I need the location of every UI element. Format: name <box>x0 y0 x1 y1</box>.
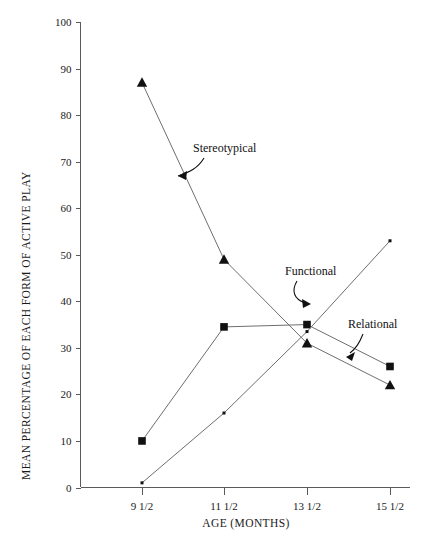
annotation-arrow-relational <box>350 334 363 353</box>
data-point-stereotypical-3 <box>385 380 395 389</box>
y-tick-labels: 0102030405060708090100 <box>55 16 72 494</box>
data-point-relational-3 <box>389 239 392 242</box>
y-tick-label-30: 30 <box>61 342 73 354</box>
annotation-arrow-functional <box>294 281 305 303</box>
data-point-functional-1 <box>220 323 228 331</box>
annotation-arrowhead-stereotypical <box>178 171 187 180</box>
y-tick-marks <box>76 23 81 489</box>
y-tick-label-10: 10 <box>61 435 73 447</box>
annotation-label-functional: Functional <box>285 264 337 278</box>
y-tick-label-50: 50 <box>61 249 73 261</box>
annotation-relational: Relational <box>346 317 398 361</box>
data-point-functional-0 <box>138 437 146 445</box>
x-tick-label-0: 9 1/2 <box>131 500 153 512</box>
series-functional <box>138 321 394 445</box>
x-axis-title: AGE (MONTHS) <box>202 517 290 530</box>
x-tick-label-1: 11 1/2 <box>210 500 237 512</box>
y-tick-label-40: 40 <box>61 295 73 307</box>
data-series-layer <box>137 77 395 484</box>
y-axis-title: MEAN PERCENTAGE OF EACH FORM OF ACTIVE P… <box>20 171 32 480</box>
annotation-label-relational: Relational <box>348 317 398 331</box>
x-tick-labels: 9 1/211 1/213 1/215 1/2 <box>131 500 404 512</box>
series-line-stereotypical <box>142 83 390 386</box>
series-line-functional <box>142 325 390 441</box>
annotation-functional: Functional <box>285 264 337 308</box>
data-point-stereotypical-0 <box>137 77 147 86</box>
x-axis <box>81 488 411 495</box>
x-tick-label-3: 15 1/2 <box>376 500 404 512</box>
series-line-relational <box>142 241 390 483</box>
series-relational <box>141 239 392 484</box>
line-chart-canvas: 0102030405060708090100 9 1/211 1/213 1/2… <box>0 0 422 553</box>
annotation-label-stereotypical: Stereotypical <box>193 141 257 155</box>
data-point-stereotypical-1 <box>219 254 229 263</box>
data-point-functional-3 <box>386 363 394 371</box>
annotation-arrowhead-relational <box>346 352 355 361</box>
x-tick-label-2: 13 1/2 <box>293 500 321 512</box>
y-tick-label-70: 70 <box>61 156 73 168</box>
data-point-relational-1 <box>223 412 226 415</box>
series-stereotypical <box>137 77 395 389</box>
y-tick-label-80: 80 <box>61 109 73 121</box>
data-point-functional-2 <box>303 321 311 329</box>
y-tick-label-60: 60 <box>61 202 73 214</box>
annotation-stereotypical: Stereotypical <box>178 141 257 180</box>
x-tick-marks <box>143 488 391 495</box>
y-tick-label-0: 0 <box>66 482 72 494</box>
y-tick-label-100: 100 <box>55 16 72 28</box>
annotation-arrow-stereotypical <box>178 158 204 176</box>
y-tick-label-20: 20 <box>61 388 73 400</box>
y-axis <box>76 22 81 488</box>
chart-figure: 0102030405060708090100 9 1/211 1/213 1/2… <box>0 0 422 553</box>
data-point-relational-2 <box>306 330 309 333</box>
annotation-arrowhead-functional <box>302 299 311 308</box>
y-tick-label-90: 90 <box>61 63 73 75</box>
data-point-relational-0 <box>141 481 144 484</box>
